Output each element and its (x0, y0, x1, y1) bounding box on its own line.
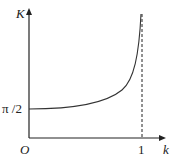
y-axis-arrow-icon (26, 8, 32, 15)
y-tick-label: π /2 (2, 101, 22, 116)
origin-label: O (20, 142, 30, 157)
x-axis-arrow-icon (159, 135, 166, 141)
curve (29, 14, 141, 109)
elliptic-integral-plot: K k O π /2 1 (0, 0, 174, 164)
y-axis-label: K (15, 6, 26, 21)
x-tick-label: 1 (138, 142, 145, 157)
x-axis-label: k (163, 142, 169, 157)
